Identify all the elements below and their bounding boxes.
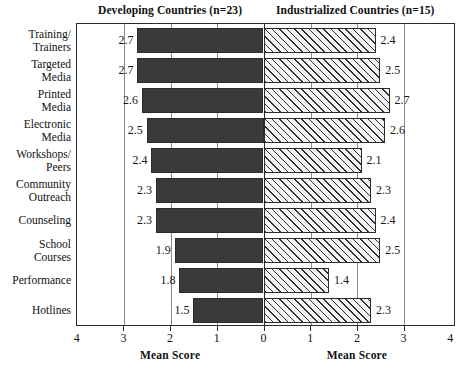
bar-industrialized: [264, 178, 371, 203]
category-label: Targeted Media: [0, 58, 71, 83]
bar-industrialized: [264, 268, 329, 293]
bar-developing: [142, 88, 263, 113]
value-label-industrialized: 2.4: [381, 208, 413, 233]
value-label-developing: 1.5: [157, 298, 189, 323]
axis-tick-label: 4: [64, 331, 90, 346]
value-label-industrialized: 1.4: [334, 268, 366, 293]
bar-industrialized: [264, 88, 390, 113]
axis-title-right: Mean Score: [297, 349, 417, 361]
bar-developing: [179, 268, 263, 293]
bar-developing: [151, 148, 263, 173]
category-label: Printed Media: [0, 88, 71, 113]
value-label-industrialized: 2.5: [385, 58, 417, 83]
value-label-industrialized: 2.7: [395, 88, 427, 113]
bar-developing: [137, 58, 263, 83]
category-label: Hotlines: [0, 304, 71, 317]
bar-developing: [137, 28, 263, 53]
bar-industrialized: [264, 238, 381, 263]
axis-tick-label: 3: [110, 331, 136, 346]
axis-tick-label: 1: [204, 331, 230, 346]
axis-tick-label: 2: [157, 331, 183, 346]
bar-developing: [193, 298, 263, 323]
axis-tick-label: 2: [344, 331, 370, 346]
bar-developing: [147, 118, 264, 143]
axis-title-left: Mean Score: [110, 349, 230, 361]
diverging-bar-chart: Developing Countries (n=23) Industrializ…: [0, 0, 462, 371]
category-label: Electronic Media: [0, 118, 71, 143]
value-label-industrialized: 2.6: [390, 118, 422, 143]
category-label: Counseling: [0, 214, 71, 227]
category-label: Workshops/ Peers: [0, 148, 71, 173]
bar-industrialized: [264, 118, 385, 143]
value-label-developing: 1.9: [139, 238, 171, 263]
bar-industrialized: [264, 58, 381, 83]
value-label-developing: 1.8: [143, 268, 175, 293]
axis-tick-label: 1: [297, 331, 323, 346]
category-label: Community Outreach: [0, 178, 71, 203]
value-label-industrialized: 2.5: [385, 238, 417, 263]
value-label-developing: 2.6: [106, 88, 138, 113]
bar-industrialized: [264, 28, 376, 53]
bar-developing: [175, 238, 264, 263]
bar-industrialized: [264, 298, 371, 323]
value-label-industrialized: 2.4: [381, 28, 413, 53]
value-label-developing: 2.4: [115, 148, 147, 173]
axis-tick-label: 4: [437, 331, 462, 346]
panel-title-industrialized: Industrialized Countries (n=15): [276, 4, 435, 16]
axis-tick-label: 3: [391, 331, 417, 346]
value-label-industrialized: 2.1: [367, 148, 399, 173]
bar-developing: [156, 208, 263, 233]
value-label-industrialized: 2.3: [376, 298, 408, 323]
value-label-developing: 2.7: [101, 58, 133, 83]
panel-title-developing: Developing Countries (n=23): [98, 4, 242, 16]
bar-industrialized: [264, 148, 362, 173]
value-label-developing: 2.3: [120, 178, 152, 203]
category-label: Performance: [0, 274, 71, 287]
category-label: Training/ Trainers: [0, 28, 71, 53]
value-label-developing: 2.7: [101, 28, 133, 53]
value-label-developing: 2.5: [111, 118, 143, 143]
value-label-developing: 2.3: [120, 208, 152, 233]
value-label-industrialized: 2.3: [376, 178, 408, 203]
category-label: School Courses: [0, 238, 71, 263]
axis-tick-label: 0: [251, 331, 277, 346]
bar-developing: [156, 178, 263, 203]
bar-industrialized: [264, 208, 376, 233]
